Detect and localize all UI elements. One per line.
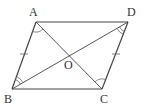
angle-mark-d bbox=[120, 27, 125, 32]
angle-mark-c bbox=[95, 79, 106, 82]
label-a: A bbox=[29, 5, 38, 19]
angle-mark-a bbox=[33, 29, 44, 32]
angle-mark-b-2 bbox=[17, 77, 24, 83]
label-b: B bbox=[4, 92, 12, 106]
angle-mark-b bbox=[16, 80, 21, 85]
angle-mark-d-2 bbox=[117, 29, 124, 35]
diagonal-bd bbox=[12, 22, 128, 89]
parallelogram-figure: A D B C O bbox=[0, 0, 149, 111]
label-d: D bbox=[127, 5, 136, 19]
edge-cd bbox=[102, 22, 128, 89]
label-c: C bbox=[100, 92, 108, 106]
edge-ab bbox=[12, 22, 36, 89]
diagonal-ac bbox=[36, 22, 102, 89]
label-o: O bbox=[64, 58, 73, 72]
